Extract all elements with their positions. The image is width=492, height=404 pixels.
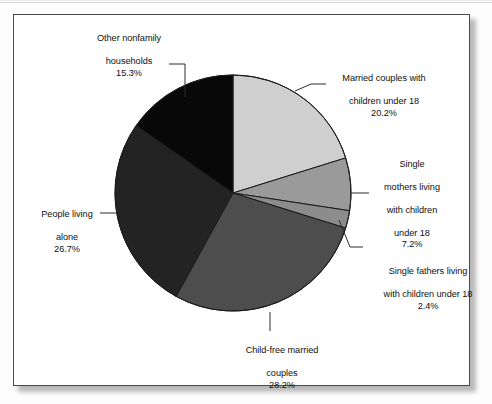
slice-label-single-mothers-line4: under 18 bbox=[394, 228, 430, 238]
slice-label-married-with-children-line2: children under 18 bbox=[349, 96, 419, 106]
slice-label-people-living-alone-line2: alone bbox=[56, 232, 78, 242]
slice-value-people-living-alone: 26.7% bbox=[17, 244, 117, 255]
slice-label-people-living-alone: People living alone 26.7% bbox=[17, 198, 117, 266]
slice-label-people-living-alone-line1: People living bbox=[41, 209, 92, 219]
slice-label-other-nonfamily: Other nonfamily households 15.3% bbox=[64, 22, 194, 90]
slice-label-child-free-married-line2: couples bbox=[266, 368, 297, 378]
slice-value-married-with-children: 20.2% bbox=[314, 108, 454, 119]
slice-label-married-with-children-line1: Married couples with bbox=[342, 73, 425, 83]
slice-value-child-free-married: 28.2% bbox=[212, 380, 352, 391]
slice-label-single-mothers: Single mothers living with children unde… bbox=[362, 148, 462, 262]
scan-edge-rule bbox=[0, 2, 492, 3]
slice-label-single-mothers-line2: mothers living bbox=[384, 182, 440, 192]
slice-value-other-nonfamily: 15.3% bbox=[64, 68, 194, 79]
slice-label-single-mothers-line1: Single bbox=[399, 159, 424, 169]
slice-value-single-fathers: 2.4% bbox=[358, 301, 492, 312]
slice-value-single-mothers: 7.2% bbox=[362, 239, 462, 250]
slice-label-other-nonfamily-line1: Other nonfamily bbox=[97, 33, 161, 43]
slice-label-other-nonfamily-line2: households bbox=[106, 56, 153, 66]
slice-label-single-fathers-line1: Single fathers living bbox=[389, 266, 468, 276]
figure-frame: Other nonfamily households 15.3% Married… bbox=[13, 14, 470, 386]
pie-chart-figure: Other nonfamily households 15.3% Married… bbox=[14, 15, 471, 387]
slice-label-single-fathers: Single fathers living with children unde… bbox=[358, 255, 492, 323]
slice-label-child-free-married: Child-free married couples 28.2% bbox=[212, 334, 352, 402]
scan-edge-rule-upper bbox=[0, 0, 492, 1]
slice-label-single-fathers-line2: with children under 18 bbox=[384, 289, 473, 299]
slice-label-married-with-children: Married couples with children under 18 2… bbox=[314, 62, 454, 130]
slice-label-child-free-married-line1: Child-free married bbox=[246, 345, 319, 355]
figure-page: Other nonfamily households 15.3% Married… bbox=[0, 0, 492, 404]
slice-label-single-mothers-line3: with children bbox=[387, 205, 437, 215]
